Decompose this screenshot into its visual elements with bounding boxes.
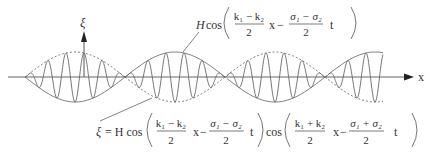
fraction-numerator: σ₁ − σ₂ <box>290 10 322 22</box>
xi-axis-label: ξ <box>80 15 86 30</box>
fraction-denominator: 2 <box>307 134 313 146</box>
fraction-denominator: 2 <box>303 26 309 38</box>
fraction-numerator: σ₁ − σ₂ <box>210 117 242 129</box>
envelope-dashed <box>227 52 327 77</box>
envelope-formula: H cos k₁ − k₂ 2 x − σ₁ − σ₂ 2 t <box>195 7 356 39</box>
fraction-denominator: 2 <box>223 134 229 146</box>
formula-t: t <box>250 125 254 139</box>
envelope-dashed <box>125 77 225 102</box>
fraction-numerator: k₁ − k₂ <box>156 117 187 129</box>
x-axis-arrow-icon <box>404 74 414 81</box>
xi-axis-arrow-icon <box>81 31 87 42</box>
fraction-numerator: k₁ − k₂ <box>234 10 265 22</box>
envelope-dashed <box>25 52 125 77</box>
open-paren <box>224 7 229 39</box>
formula-t: t <box>394 125 398 139</box>
formula-cos: cos <box>266 125 282 139</box>
open-paren <box>285 113 290 147</box>
formula-xi: ξ <box>96 125 102 139</box>
envelope-leader-line <box>183 32 199 52</box>
fraction-denominator: 2 <box>363 134 369 146</box>
x-axis-label: x <box>418 70 424 84</box>
fraction-numerator: σ₁ + σ₂ <box>350 117 382 129</box>
wave-leader-line <box>100 98 152 121</box>
formula-cos: cos <box>206 18 222 32</box>
formula-x: x <box>193 125 199 139</box>
open-paren <box>147 113 152 147</box>
carrier-wave <box>25 53 383 102</box>
wave-formula: ξ = H cos k₁ − k₂ 2 x − σ₁ − σ₂ 2 t cos … <box>96 113 417 147</box>
formula-t: t <box>330 18 334 32</box>
formula-eq-H-cos: = H cos <box>105 125 143 139</box>
formula-x: x <box>333 125 339 139</box>
close-paren <box>258 113 263 147</box>
fraction-denominator: 2 <box>168 134 174 146</box>
fraction-numerator: k₁ + k₂ <box>295 117 326 129</box>
close-paren <box>412 113 417 147</box>
envelope-solid <box>125 52 225 77</box>
formula-minus: − <box>200 125 207 139</box>
fraction-denominator: 2 <box>246 26 252 38</box>
formula-minus: − <box>340 125 347 139</box>
formula-x: x <box>269 18 275 32</box>
formula-H: H <box>195 18 206 32</box>
formula-minus: − <box>277 18 284 32</box>
envelope-solid <box>25 77 125 102</box>
wave-group-diagram: x ξ H cos k₁ − k₂ 2 x − σ₁ − σ₂ 2 t ξ = … <box>0 0 430 155</box>
envelope-solid <box>328 52 383 75</box>
close-paren <box>351 7 356 39</box>
